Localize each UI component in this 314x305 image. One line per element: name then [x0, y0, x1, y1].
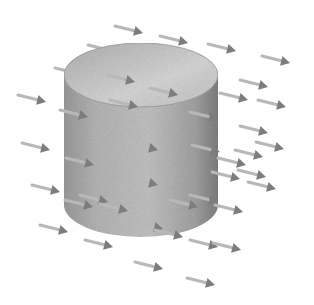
arrow-head — [238, 93, 248, 103]
arrow-head — [258, 80, 268, 90]
field-arrow — [215, 205, 243, 215]
arrow-shaft — [235, 150, 254, 155]
field-arrow — [258, 100, 286, 110]
arrow-head — [274, 142, 284, 152]
arrow-head — [276, 100, 286, 110]
field-arrow — [238, 170, 266, 180]
arrow-shaft — [85, 240, 104, 245]
arrow-shaft — [190, 240, 209, 245]
field-arrow — [135, 262, 163, 272]
arrow-shaft — [160, 36, 179, 41]
field-arrow — [115, 26, 143, 36]
field-arrow — [18, 95, 46, 105]
field-arrow — [248, 182, 276, 192]
field-arrow — [218, 158, 246, 168]
field-arrow — [190, 240, 218, 250]
arrow-head — [256, 170, 266, 180]
arrow-shaft — [40, 225, 59, 230]
arrow-shaft — [135, 262, 154, 267]
field-arrow — [208, 44, 236, 54]
flux-cylinder-diagram — [0, 0, 314, 305]
arrow-head — [133, 26, 143, 36]
arrow-head — [103, 240, 113, 250]
field-arrow — [85, 240, 113, 250]
arrow-head — [231, 243, 241, 253]
field-arrow — [240, 126, 268, 136]
arrow-shaft — [187, 278, 206, 283]
arrow-shaft — [218, 158, 237, 163]
arrow-head — [153, 262, 163, 272]
arrow-shaft — [258, 100, 277, 105]
field-arrow — [256, 142, 284, 152]
arrow-shaft — [208, 44, 227, 49]
arrow-head — [205, 278, 215, 288]
arrow-head — [253, 150, 263, 160]
field-arrow — [32, 185, 60, 195]
arrow-head — [258, 126, 268, 136]
arrow-head — [178, 36, 188, 46]
arrow-head — [233, 205, 243, 215]
arrow-head — [50, 185, 60, 195]
field-arrow — [40, 225, 68, 235]
arrow-head — [230, 172, 240, 182]
arrow-shaft — [18, 95, 37, 100]
arrow-shaft — [240, 80, 259, 85]
arrow-shaft — [248, 182, 267, 187]
arrow-shaft — [262, 56, 281, 61]
arrow-shaft — [238, 170, 257, 175]
arrow-shaft — [240, 126, 259, 131]
arrow-head — [280, 56, 290, 66]
arrow-shaft — [256, 142, 275, 147]
field-arrow — [213, 243, 241, 253]
arrow-head — [236, 158, 246, 168]
arrow-shaft — [115, 26, 134, 31]
arrow-head — [266, 182, 276, 192]
cylinder-top — [64, 43, 218, 107]
arrow-shaft — [22, 143, 41, 148]
field-arrow — [220, 93, 248, 103]
field-arrow — [240, 80, 268, 90]
field-arrow — [235, 150, 263, 160]
arrow-head — [40, 143, 50, 153]
arrow-head — [36, 95, 46, 105]
field-arrow — [187, 278, 215, 288]
arrow-shaft — [220, 93, 239, 98]
field-arrow — [262, 56, 290, 66]
arrow-head — [226, 44, 236, 54]
arrow-head — [58, 225, 68, 235]
arrow-shaft — [215, 205, 234, 210]
arrow-shaft — [32, 185, 51, 190]
field-arrow — [22, 143, 50, 153]
